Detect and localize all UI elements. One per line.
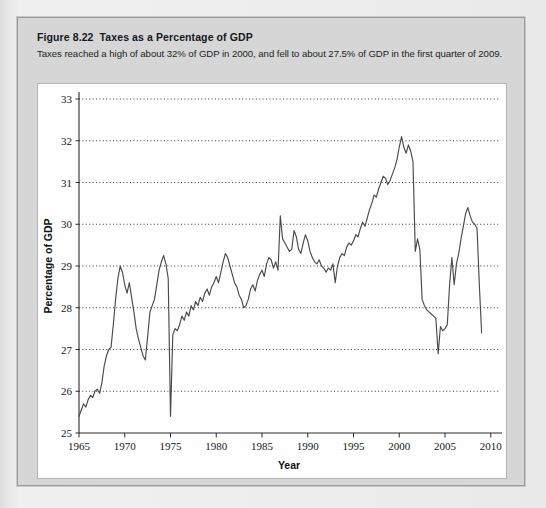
x-axis-tick-label: 1980 bbox=[205, 440, 228, 452]
x-axis-title: Year bbox=[278, 459, 300, 471]
page-background: Figure 8.22 Taxes as a Percentage of GDP… bbox=[0, 0, 546, 508]
y-axis-tick-label: 28 bbox=[61, 302, 73, 314]
figure-caption: Figure 8.22 Taxes as a Percentage of GDP… bbox=[37, 31, 507, 59]
y-axis-tick-label: 27 bbox=[61, 344, 73, 356]
figure-panel: Figure 8.22 Taxes as a Percentage of GDP… bbox=[17, 17, 525, 486]
y-axis-tick-label: 26 bbox=[61, 385, 73, 397]
y-axis-tick-labels: 252627282930313233 bbox=[61, 93, 73, 439]
x-axis-tick-label: 2010 bbox=[480, 440, 503, 452]
data-series-line bbox=[79, 137, 482, 417]
y-axis-tick-label: 31 bbox=[61, 177, 72, 189]
line-chart: 252627282930313233 196519701975198019851… bbox=[38, 84, 506, 478]
figure-subtitle: Taxes reached a high of about 32% of GDP… bbox=[37, 48, 507, 59]
gridlines bbox=[76, 99, 500, 433]
x-axis-tick-labels: 1965197019751980198519901995200020052010 bbox=[68, 440, 502, 452]
x-axis-tick-label: 1995 bbox=[343, 440, 366, 452]
figure-title-text: Taxes as a Percentage of GDP bbox=[100, 31, 253, 43]
x-axis-tick-label: 1965 bbox=[68, 440, 91, 452]
x-axis-tick-label: 2000 bbox=[388, 440, 411, 452]
x-axis-ticks bbox=[79, 433, 491, 438]
y-axis-tick-label: 32 bbox=[61, 135, 72, 147]
y-axis-tick-label: 30 bbox=[61, 218, 73, 230]
x-axis-tick-label: 1970 bbox=[114, 440, 137, 452]
figure-title: Figure 8.22 Taxes as a Percentage of GDP bbox=[37, 31, 507, 43]
y-axis-title: Percentage of GDP bbox=[42, 218, 54, 313]
y-axis-tick-label: 29 bbox=[61, 260, 73, 272]
x-axis-tick-label: 1985 bbox=[251, 440, 274, 452]
x-axis-tick-label: 2005 bbox=[434, 440, 457, 452]
figure-number: Figure 8.22 bbox=[37, 31, 94, 43]
chart-panel: 252627282930313233 196519701975198019851… bbox=[37, 83, 507, 479]
x-axis-tick-label: 1975 bbox=[160, 440, 183, 452]
x-axis-tick-label: 1990 bbox=[297, 440, 320, 452]
y-axis-tick-label: 33 bbox=[61, 93, 73, 105]
y-axis-tick-label: 25 bbox=[61, 427, 73, 439]
